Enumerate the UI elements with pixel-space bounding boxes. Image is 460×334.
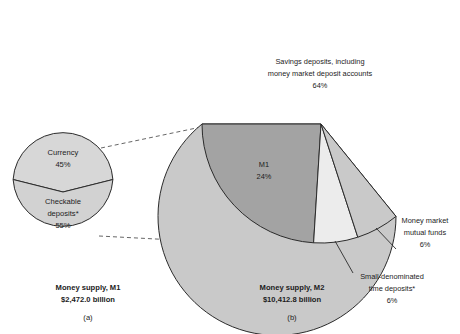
figure-svg: Currency 45% Checkable deposits* 55% Mon… (0, 0, 460, 334)
label-mmmf-line2: mutual funds (404, 228, 447, 237)
label-currency-name: Currency (48, 148, 79, 157)
panel-b-caption-line1: Money supply, M2 (260, 283, 325, 292)
panel-a-caption: Money supply, M1 $2,472.0 billion (a) (56, 283, 122, 322)
label-savings-line1: Savings deposits, including (275, 57, 364, 66)
label-savings-value: 64% (313, 81, 328, 90)
label-small-time-line2: time deposits* (369, 284, 416, 293)
m1-pie-chart: Currency 45% Checkable deposits* 55% (13, 133, 113, 230)
label-m1-name: M1 (259, 160, 269, 169)
panel-a-caption-line1: Money supply, M1 (56, 283, 122, 292)
panel-b-part-label: (b) (287, 313, 297, 322)
label-checkable-value: 55% (55, 221, 70, 230)
m2-pie-chart: Savings deposits, including money market… (158, 57, 448, 334)
label-checkable-name-2: deposits* (47, 209, 78, 218)
label-m1-value: 24% (257, 172, 272, 181)
label-checkable-name-1: Checkable (45, 197, 81, 206)
label-small-time-line1: Small-denominated (360, 272, 424, 281)
label-small-time-value: 6% (387, 296, 398, 305)
label-mmmf-value: 6% (420, 240, 431, 249)
label-savings-line2: money market deposit accounts (268, 69, 373, 78)
label-mmmf-line1: Money market (402, 216, 449, 225)
panel-a-caption-line2: $2,472.0 billion (61, 295, 115, 304)
money-supply-pie-figure: Currency 45% Checkable deposits* 55% Mon… (0, 0, 460, 334)
label-currency-value: 45% (55, 160, 70, 169)
panel-b-caption-line2: $10,412.8 billion (263, 295, 322, 304)
panel-a-part-label: (a) (83, 313, 93, 322)
